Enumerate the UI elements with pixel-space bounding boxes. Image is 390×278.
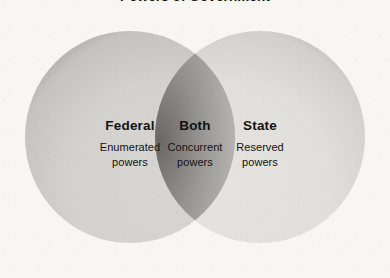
venn-label-state-description-line-1: Reserved — [201, 140, 319, 155]
venn-labels: Federal Enumerated powers Both Concurren… — [0, 0, 390, 278]
diagram-title: Powers of Government — [0, 0, 390, 4]
venn-label-state-description: Reserved powers — [201, 140, 319, 169]
venn-label-state-heading: State — [201, 118, 319, 133]
venn-label-state: State Reserved powers — [201, 118, 319, 169]
venn-label-state-description-line-2: powers — [201, 155, 319, 170]
